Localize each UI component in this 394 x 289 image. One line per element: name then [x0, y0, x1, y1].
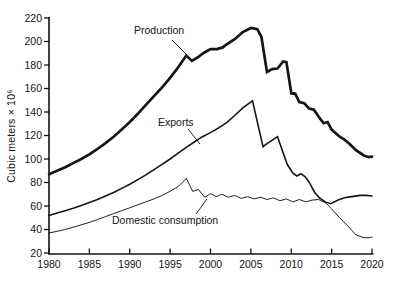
exports-line: [49, 101, 372, 216]
y-tick-label: 100: [24, 153, 42, 165]
annotation-leader-line: [196, 199, 207, 214]
series-label-domestic-consumption: Domestic consumption: [112, 214, 218, 226]
x-tick-label: 1990: [118, 258, 142, 270]
y-tick-label: 60: [30, 200, 42, 212]
y-tick-label: 40: [30, 223, 42, 235]
x-tick-label: 2020: [360, 258, 384, 270]
x-tick-label: 1985: [78, 258, 102, 270]
y-tick-label: 200: [24, 35, 42, 47]
x-tick-label: 2005: [239, 258, 263, 270]
domestic-consumption-line: [49, 178, 372, 237]
y-tick-label: 180: [24, 59, 42, 71]
production-line: [49, 28, 372, 174]
x-tick-label: 1980: [37, 258, 61, 270]
series-label-exports: Exports: [158, 116, 194, 128]
annotation-leader-line: [172, 40, 186, 54]
chart: 2040608010012014016018020022019801985199…: [0, 0, 394, 289]
y-tick-label: 120: [24, 129, 42, 141]
y-tick-label: 160: [24, 82, 42, 94]
series-label-production: Production: [134, 24, 184, 36]
x-tick-label: 2015: [320, 258, 344, 270]
y-tick-label: 80: [30, 176, 42, 188]
x-tick-label: 2010: [280, 258, 304, 270]
y-tick-label: 220: [24, 12, 42, 24]
x-tick-label: 2000: [199, 258, 223, 270]
line-chart-canvas: 2040608010012014016018020022019801985199…: [0, 0, 394, 289]
y-tick-label: 140: [24, 106, 42, 118]
y-tick-label: 20: [30, 247, 42, 259]
x-tick-label: 1995: [158, 258, 182, 270]
y-axis-label: Cubic meters × 10⁶: [5, 89, 17, 182]
